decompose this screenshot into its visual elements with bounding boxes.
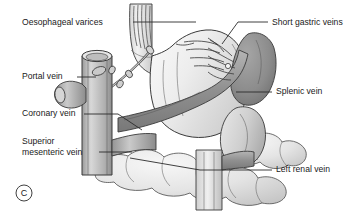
anatomy-illustration: Oesophageal varices Portal vein Coronary… bbox=[0, 0, 358, 212]
label-short-gastric-veins: Short gastric veins bbox=[272, 17, 343, 27]
portal-vein-lumen bbox=[86, 53, 108, 61]
ivc-trunk bbox=[196, 150, 222, 210]
inferior-vena-cava bbox=[196, 150, 222, 210]
label-left-renal-vein: Left renal vein bbox=[276, 164, 330, 174]
svg-text:Superior: Superior bbox=[22, 136, 55, 146]
label-splenic-vein: Splenic vein bbox=[276, 86, 323, 96]
label-portal-vein: Portal vein bbox=[22, 71, 63, 81]
label-oesophageal-varices: Oesophageal varices bbox=[22, 17, 103, 27]
splenic-hilum-marker bbox=[225, 63, 230, 68]
left-renal-vein-vessel bbox=[222, 151, 254, 170]
svg-text:mesenteric vein: mesenteric vein bbox=[22, 147, 82, 157]
anatomy-figure: Oesophageal varices Portal vein Coronary… bbox=[0, 0, 358, 212]
label-coronary-vein: Coronary vein bbox=[22, 108, 76, 118]
panel-letter-text: C bbox=[21, 188, 28, 198]
left-renal-vein-trunk bbox=[222, 151, 254, 170]
